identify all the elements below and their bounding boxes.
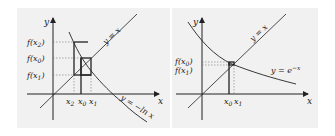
right-y-axis-label: y (192, 17, 199, 27)
left-ytick-fx2: f(x2) (26, 38, 45, 48)
right-ytick-fx1: f(x1) (174, 66, 193, 76)
left-x-axis-label: x (158, 96, 163, 106)
left-ytick-fx1: f(x1) (26, 71, 45, 81)
right-x-axis-label: x (307, 96, 312, 106)
left-panel: y x y = x y = −ln x f(x2) f(x0) (17, 8, 170, 128)
right-panel: y x y = x y = e−x f(x0) f(x1) x0 (172, 8, 318, 128)
left-y-axis-label: y (43, 17, 50, 27)
left-ytick-fx0: f(x0) (26, 54, 45, 64)
cobweb-diagrams: y x y = x y = −ln x f(x2) f(x0) (0, 0, 335, 136)
